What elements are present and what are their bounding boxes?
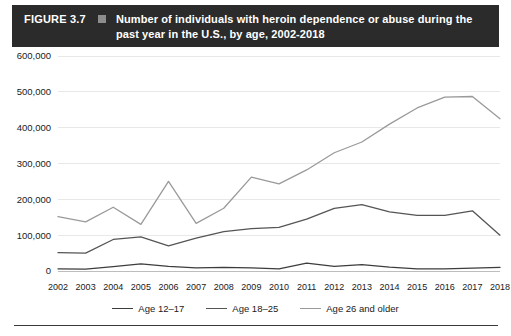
figure-number-label: FIGURE 3.7 [24, 12, 86, 26]
y-tick-label: 300,000 [17, 158, 51, 169]
x-tick-label: 2018 [490, 282, 510, 292]
y-tick-label: 600,000 [17, 50, 51, 61]
legend-item[interactable]: Age 26 and older [300, 303, 398, 314]
x-tick-label: 2009 [241, 282, 261, 292]
legend-label: Age 18–25 [232, 303, 278, 314]
chart-legend: Age 12–17Age 18–25Age 26 and older [0, 300, 511, 316]
bottom-divider [14, 325, 498, 326]
x-tick-label: 2011 [297, 282, 316, 292]
x-tick-label: 2014 [379, 282, 399, 292]
y-tick-label: 0 [46, 265, 51, 276]
y-tick-label: 400,000 [17, 122, 51, 133]
legend-item[interactable]: Age 12–17 [112, 303, 184, 314]
chart-canvas: 0100,000200,000300,000400,000500,000600,… [0, 48, 511, 314]
x-tick-label: 2006 [158, 282, 178, 292]
x-tick-label: 2008 [214, 282, 234, 292]
x-tick-label: 2013 [352, 282, 372, 292]
y-tick-label: 200,000 [17, 194, 51, 205]
legend-line-swatch-icon [112, 308, 133, 309]
series-line-age-26-and-older [58, 96, 500, 224]
series-line-age-18-25 [58, 205, 500, 253]
x-tick-label: 2007 [186, 282, 206, 292]
y-axis-tick-labels: 0100,000200,000300,000400,000500,000600,… [17, 50, 51, 276]
x-tick-label: 2010 [269, 282, 289, 292]
square-marker-icon [98, 15, 106, 23]
x-tick-label: 2003 [76, 282, 96, 292]
figure-header: FIGURE 3.7 Number of individuals with he… [12, 5, 499, 47]
series-line-age-12-17 [58, 263, 500, 269]
y-tick-label: 100,000 [17, 230, 51, 241]
x-tick-label: 2016 [435, 282, 455, 292]
legend-label: Age 26 and older [326, 303, 398, 314]
line-chart: 0100,000200,000300,000400,000500,000600,… [0, 48, 511, 314]
data-series-group [58, 96, 500, 269]
x-axis-tick-labels: 2002200320042005200620072008200920102011… [48, 282, 510, 292]
x-tick-label: 2012 [324, 282, 344, 292]
legend-item[interactable]: Age 18–25 [206, 303, 278, 314]
x-tick-label: 2005 [131, 282, 151, 292]
legend-label: Age 12–17 [138, 303, 184, 314]
x-tick-label: 2004 [103, 282, 123, 292]
figure-title: Number of individuals with heroin depend… [116, 12, 491, 42]
y-tick-label: 500,000 [17, 86, 51, 97]
legend-line-swatch-icon [206, 308, 227, 309]
legend-line-swatch-icon [300, 308, 321, 309]
x-tick-label: 2002 [48, 282, 68, 292]
x-tick-label: 2017 [462, 282, 482, 292]
x-tick-label: 2015 [407, 282, 427, 292]
